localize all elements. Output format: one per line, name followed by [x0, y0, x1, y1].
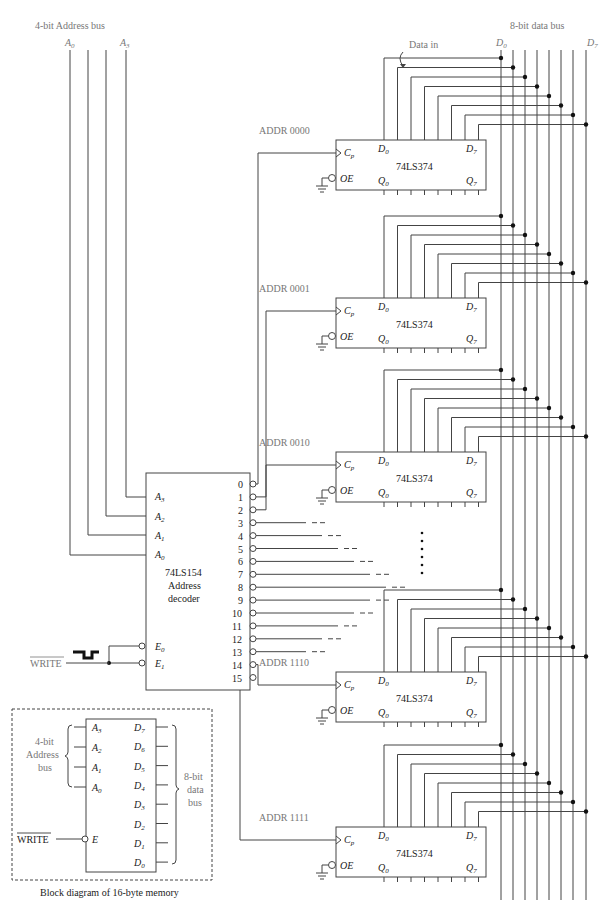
register-address-label: ADDR 1111	[259, 812, 309, 823]
svg-text:OE: OE	[340, 860, 353, 871]
svg-text:OE: OE	[340, 485, 353, 496]
bd-data-label-3: bus	[188, 797, 202, 808]
register-chip-label: 74LS374	[396, 319, 433, 330]
register-address-label: ADDR 0000	[259, 125, 310, 136]
decoder-output-5: 5	[238, 544, 243, 555]
bd-enable-pin: E	[91, 834, 98, 845]
bd-data-label-2: data	[187, 784, 204, 795]
data-in-label: Data in	[409, 39, 438, 50]
decoder-output-13: 13	[232, 647, 242, 658]
decoder-output-3: 3	[238, 518, 243, 529]
address-bus-a0-label: A0	[64, 37, 75, 50]
decoder-output-1: 1	[238, 492, 243, 503]
address-bus-label: 4-bit Address bus	[35, 20, 105, 31]
ellipsis-dots	[421, 532, 424, 575]
block-diagram: A3A2A1A0D7D6D5D4D3D2D1D0 4-bit Address b…	[12, 709, 212, 898]
bd-data-label-1: 8-bit	[184, 771, 203, 782]
svg-text:OE: OE	[340, 173, 353, 184]
pulse-waveform-icon	[73, 652, 99, 658]
decoder-output-6: 6	[238, 556, 243, 567]
decoder-output-7: 7	[238, 569, 243, 580]
decoder-output-4: 4	[238, 531, 243, 542]
decoder-output-9: 9	[238, 595, 243, 606]
data-bus-label: 8-bit data bus	[510, 20, 565, 31]
register-addr-0000: ADDR 000074LS374CpOED0D7Q0Q7	[254, 56, 588, 484]
register-address-label: ADDR 1110	[259, 657, 309, 668]
register-chip-label: 74LS374	[396, 848, 433, 859]
decoder-output-12: 12	[232, 634, 242, 645]
decoder-output-2: 2	[238, 505, 243, 516]
svg-text:OE: OE	[340, 331, 353, 342]
bd-write-label: WRITE	[17, 834, 49, 845]
decoder-label-line3: decoder	[168, 593, 200, 604]
data-brace	[172, 725, 179, 864]
data-bus-d7-label: D7	[586, 37, 598, 50]
register-chip-label: 74LS374	[396, 693, 433, 704]
register-address-label: ADDR 0001	[259, 283, 310, 294]
decoder-output-8: 8	[238, 582, 243, 593]
decoder-label-line2: Address	[168, 580, 201, 591]
data-bus-d0-label: D0	[495, 37, 507, 50]
data-bus	[501, 50, 586, 900]
write-enable-circuit: WRITE	[30, 643, 145, 669]
bd-address-label-1: 4-bit	[35, 736, 54, 747]
bd-address-label-2: Address	[26, 749, 59, 760]
address-bus-a3-label: A3	[119, 37, 130, 50]
register-chip-label: 74LS374	[396, 473, 433, 484]
register-addr-1110: ADDR 111074LS374CpOED0D7Q0Q7	[254, 588, 588, 727]
register-addr-0010: ADDR 001074LS374CpOED0D7Q0Q7	[254, 368, 588, 510]
decoder-output-14: 14	[232, 660, 242, 671]
data-in-arrow	[400, 52, 403, 66]
bd-caption: Block diagram of 16-byte memory	[40, 887, 179, 898]
register-group: ADDR 000074LS374CpOED0D7Q0Q7ADDR 000174L…	[240, 56, 588, 882]
svg-text:OE: OE	[340, 705, 353, 716]
bd-address-label-3: bus	[38, 762, 52, 773]
address-bus	[70, 50, 146, 555]
memory-circuit-diagram: 4-bit Address bus A0 A3 8-bit data bus D…	[0, 0, 612, 905]
decoder-output-15: 15	[232, 673, 242, 684]
decoder-output-10: 10	[232, 608, 242, 619]
register-chip-label: 74LS374	[396, 161, 433, 172]
address-brace	[65, 725, 72, 787]
register-address-label: ADDR 0010	[259, 437, 310, 448]
decoder-output-11: 11	[232, 621, 242, 632]
decoder-chip-label: 74LS154	[165, 567, 202, 578]
decoder-output-0: 0	[238, 479, 243, 490]
write-label: WRITE	[30, 658, 62, 669]
